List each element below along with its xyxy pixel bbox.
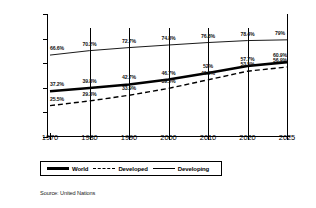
data-label: 52% (203, 63, 213, 69)
legend-swatch-developed-icon (93, 168, 115, 169)
data-label: 53.5% (241, 61, 255, 67)
data-label: 70.2% (83, 41, 97, 47)
data-label: 74.8% (162, 35, 176, 41)
data-label: 72.7% (122, 38, 136, 44)
plot-area: 37.2%39.8%42.7%46.7%52%57.7%60.9%25.5%29… (47, 14, 290, 137)
legend-label-developed: Developed (118, 166, 147, 172)
data-label: 76.8% (201, 33, 215, 39)
x-axis-tick-label: 1990 (121, 133, 137, 142)
chart-legend: World Developed Developing (40, 161, 222, 176)
x-axis-tick-label: 2010 (200, 133, 216, 142)
x-axis-tick-label: 2020 (239, 133, 255, 142)
legend-entry-developing: Developing (153, 166, 209, 172)
source-note: Source: United Nations (40, 190, 95, 196)
data-label: 56.9% (273, 57, 287, 63)
x-axis-tick-label: 1980 (81, 133, 97, 142)
x-axis-tick-label: 2000 (160, 133, 176, 142)
data-label: 46.5% (201, 70, 215, 76)
legend-label-developing: Developing (178, 166, 209, 172)
legend-swatch-developing-icon (153, 168, 175, 169)
data-label: 29.3% (83, 91, 97, 97)
data-label: 25.5% (50, 96, 64, 102)
data-label: 78.4% (241, 31, 255, 37)
data-label: 33.9% (122, 85, 136, 91)
data-label: 39.5% (162, 78, 176, 84)
data-label: 79% (275, 30, 285, 36)
x-axis-tick-label: 1970 (42, 133, 58, 142)
legend-label-world: World (72, 166, 88, 172)
x-axis-tick-label: 2025 (279, 133, 295, 142)
data-label: 37.2% (50, 81, 64, 87)
chart-container: 0%20%40%60%80%100% 37.2%39.8%42.7%46.7%5… (0, 0, 316, 208)
data-label: 39.8% (83, 78, 97, 84)
data-label: 66.6% (50, 45, 64, 51)
legend-swatch-world-icon (47, 167, 69, 170)
legend-entry-world: World (47, 166, 88, 172)
data-label: 42.7% (122, 74, 136, 80)
data-label: 46.7% (162, 70, 176, 76)
legend-entry-developed: Developed (93, 166, 147, 172)
